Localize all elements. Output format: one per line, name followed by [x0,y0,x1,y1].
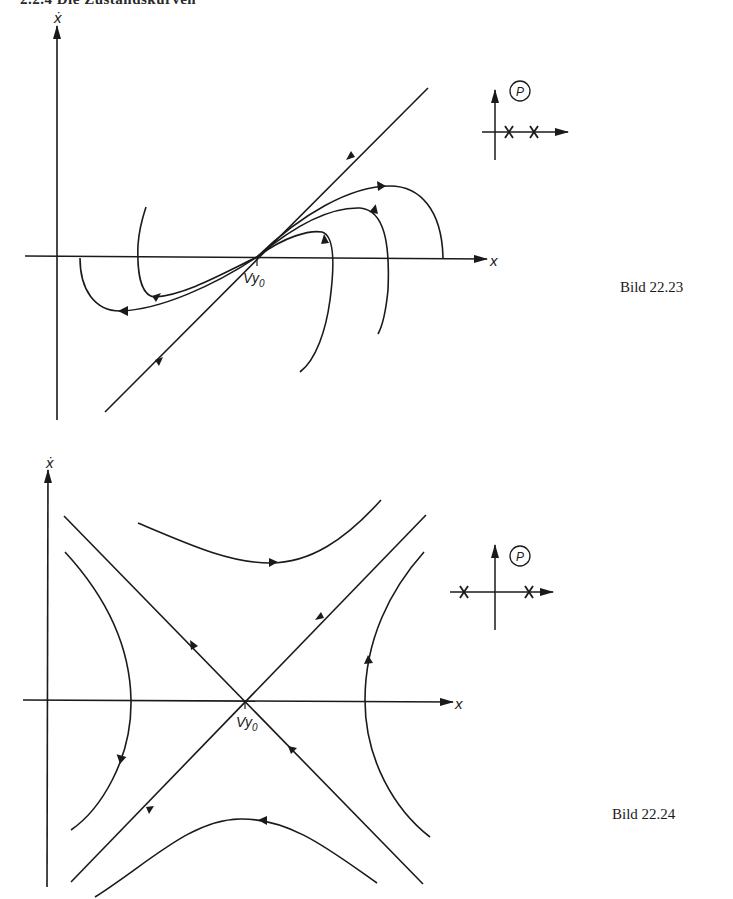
y-axis-label: ẋ [53,9,62,26]
trajectory [257,186,443,258]
figures-canvas: ẋ x Vy0 [0,0,733,899]
pole-diagram: P [450,545,553,630]
figure-caption-22-24: Bild 22.24 [612,806,675,823]
trajectory [95,819,377,897]
trajectory [80,257,257,311]
trajectory [257,232,333,372]
figure-22-23-phase-portrait: ẋ x Vy0 [25,9,568,420]
x-axis [23,700,453,702]
trajectory [138,500,381,563]
equilibrium-label: Vy0 [243,270,265,289]
trajectory [65,552,131,830]
trajectory [365,552,430,837]
figure-caption-22-23: Bild 22.23 [620,279,683,296]
trajectory [257,208,388,334]
trajectory [138,207,257,297]
figure-22-24-phase-portrait: ẋ x Vy0 [23,454,553,897]
x-axis-label: x [489,252,498,269]
pole-diagram: P [482,81,568,160]
y-axis-label: ẋ [45,454,54,471]
svg-text:P: P [516,85,524,99]
y-axis [47,470,48,887]
x-axis-label: x [454,695,463,712]
equilibrium-label: Vy0 [236,714,258,733]
unstable-separatrix [71,515,426,882]
svg-text:P: P [516,550,524,564]
